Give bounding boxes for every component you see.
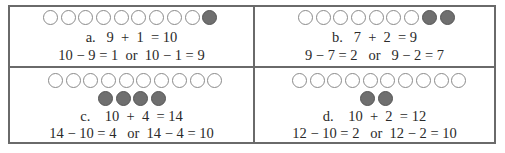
empty-counter-icon: [398, 73, 413, 88]
counter-row: [292, 73, 469, 88]
empty-counter-icon: [310, 73, 325, 88]
empty-counter-icon: [185, 10, 200, 25]
filled-counter-icon: [202, 10, 217, 25]
empty-counter-icon: [114, 10, 129, 25]
subtraction-facts: 14 − 10 = 4 or 14 − 4 = 10: [10, 125, 253, 141]
empty-counter-icon: [451, 73, 466, 88]
empty-counter-icon: [298, 10, 313, 25]
counter-row: [298, 10, 457, 25]
empty-counter-icon: [404, 10, 419, 25]
equation: c. 10 + 4 = 14: [10, 108, 253, 124]
empty-counter-icon: [167, 10, 182, 25]
empty-counter-icon: [66, 73, 81, 88]
filled-counter-icon: [151, 91, 166, 106]
empty-counter-icon: [207, 73, 222, 88]
empty-counter-icon: [416, 73, 431, 88]
panel-d: d. 10 + 2 = 12 12 − 10 = 2 or 12 − 2 = 1…: [255, 68, 494, 143]
empty-counter-icon: [190, 73, 205, 88]
empty-counter-icon: [101, 73, 116, 88]
subtraction-facts: 12 − 10 = 2 or 12 − 2 = 10: [255, 125, 494, 141]
empty-counter-icon: [333, 10, 348, 25]
equation: d. 10 + 2 = 12: [255, 108, 494, 124]
empty-counter-icon: [131, 10, 146, 25]
equation: b. 7 + 2 = 9: [255, 29, 494, 45]
empty-counter-icon: [136, 73, 151, 88]
panel-a: a. 9 + 1 = 10 10 − 9 = 1 or 10 − 1 = 9: [10, 7, 253, 66]
empty-counter-icon: [316, 10, 331, 25]
filled-counter-icon: [360, 91, 375, 106]
empty-counter-icon: [345, 73, 360, 88]
filled-counter-icon: [116, 91, 131, 106]
empty-counter-icon: [78, 10, 93, 25]
empty-counter-icon: [292, 73, 307, 88]
empty-counter-icon: [369, 10, 384, 25]
empty-counter-icon: [83, 73, 98, 88]
empty-counter-icon: [48, 73, 63, 88]
empty-counter-icon: [380, 73, 395, 88]
counter-row: [360, 91, 395, 106]
empty-counter-icon: [172, 73, 187, 88]
empty-counter-icon: [434, 73, 449, 88]
empty-counter-icon: [363, 73, 378, 88]
empty-counter-icon: [119, 73, 134, 88]
filled-counter-icon: [422, 10, 437, 25]
empty-counter-icon: [149, 10, 164, 25]
equation: a. 9 + 1 = 10: [10, 29, 253, 45]
subtraction-facts: 9 − 7 = 2 or 9 − 2 = 7: [255, 47, 494, 63]
empty-counter-icon: [351, 10, 366, 25]
filled-counter-icon: [440, 10, 455, 25]
empty-counter-icon: [386, 10, 401, 25]
empty-counter-icon: [96, 10, 111, 25]
empty-counter-icon: [327, 73, 342, 88]
subtraction-facts: 10 − 9 = 1 or 10 − 1 = 9: [10, 47, 253, 63]
empty-counter-icon: [154, 73, 169, 88]
panel-c: c. 10 + 4 = 14 14 − 10 = 4 or 14 − 4 = 1…: [10, 68, 253, 143]
empty-counter-icon: [43, 10, 58, 25]
counter-row: [98, 91, 169, 106]
counter-row: [43, 10, 220, 25]
filled-counter-icon: [98, 91, 113, 106]
filled-counter-icon: [378, 91, 393, 106]
counter-row: [48, 73, 225, 88]
filled-counter-icon: [133, 91, 148, 106]
panel-b: b. 7 + 2 = 9 9 − 7 = 2 or 9 − 2 = 7: [255, 7, 494, 66]
empty-counter-icon: [61, 10, 76, 25]
